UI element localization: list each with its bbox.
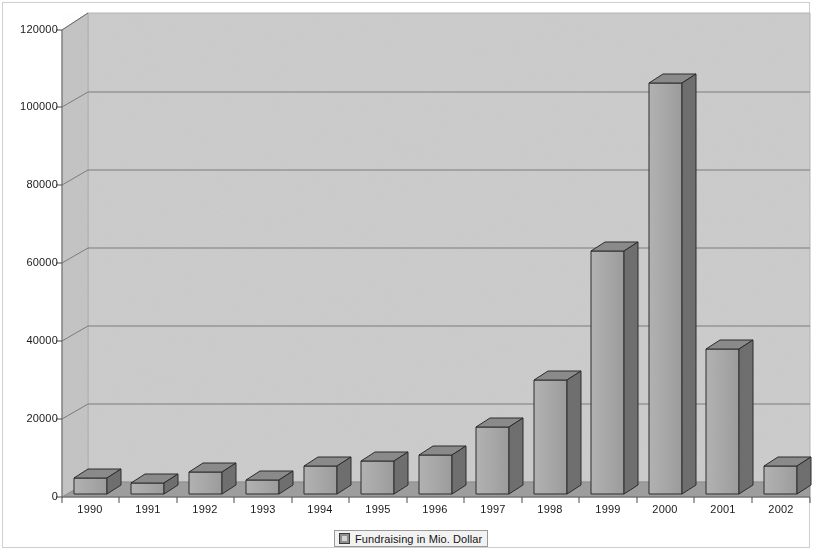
x-axis: 1990 1991 1992 1993 1994 1995 1996 1997 …: [0, 503, 814, 523]
y-tick-label-40000: 40000: [2, 335, 58, 346]
x-tick-label-1990: 1990: [66, 503, 114, 515]
legend-entry-label: Fundraising in Mio. Dollar: [355, 533, 482, 545]
x-tick-label-2002: 2002: [757, 503, 805, 515]
x-tick-label-1992: 1992: [181, 503, 229, 515]
y-tick-label-20000: 20000: [2, 413, 58, 424]
y-tick-label-80000: 80000: [2, 179, 58, 190]
plot-area: [0, 0, 814, 553]
x-tick-label-2001: 2001: [699, 503, 747, 515]
x-tick-label-1991: 1991: [124, 503, 172, 515]
y-tick-label-100000: 100000: [2, 101, 58, 112]
x-tick-label-1996: 1996: [411, 503, 459, 515]
x-tick-label-1994: 1994: [296, 503, 344, 515]
chart-container: 120000 100000 80000 60000 40000 20000 0 …: [0, 0, 814, 553]
y-tick-label-120000: 120000: [2, 24, 58, 35]
legend-swatch-icon: [339, 533, 350, 544]
x-tick-label-1995: 1995: [354, 503, 402, 515]
x-tick-label-1999: 1999: [584, 503, 632, 515]
y-axis: 120000 100000 80000 60000 40000 20000 0: [0, 0, 58, 553]
x-tick-label-1998: 1998: [526, 503, 574, 515]
x-tick-label-1993: 1993: [239, 503, 287, 515]
x-tick-label-1997: 1997: [469, 503, 517, 515]
x-tick-label-2000: 2000: [641, 503, 689, 515]
y-tick-label-60000: 60000: [2, 257, 58, 268]
chart-legend: Fundraising in Mio. Dollar: [334, 530, 488, 547]
texture-overlay: [62, 13, 810, 497]
y-tick-label-0: 0: [2, 491, 58, 502]
